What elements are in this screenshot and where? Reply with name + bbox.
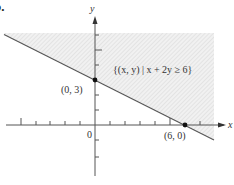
point-0-3 — [93, 78, 98, 83]
y-axis-label: y — [89, 3, 95, 14]
point-6-0 — [183, 123, 188, 128]
region-label: {(x, y) | x + 2y ≥ 6} — [113, 64, 192, 76]
point-label-0-3: (0, 3) — [61, 84, 83, 96]
x-axis-label: x — [227, 119, 233, 130]
point-label-6-0: (6, 0) — [164, 130, 186, 142]
origin-label: 0 — [87, 129, 92, 140]
inequality-graph: y x 0 (0, 3) (6, 0) {(x, y) | x + 2y ≥ 6… — [0, 0, 234, 185]
